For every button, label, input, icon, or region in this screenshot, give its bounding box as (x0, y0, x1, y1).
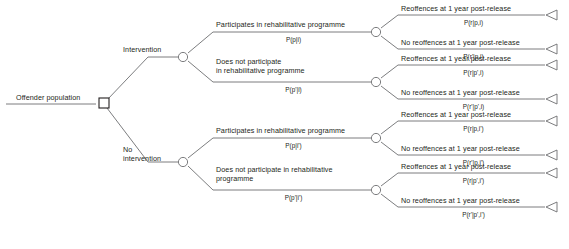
terminal-node-1 (546, 10, 557, 20)
root-label: Offender population (16, 94, 80, 103)
prob-outcome-5: P(r|p,i') (401, 125, 546, 133)
chance-node-noint-participate (371, 133, 380, 142)
label-outcome-4: No reoffences at 1 year post-release (401, 89, 520, 98)
terminal-node-6 (546, 150, 557, 160)
label-outcome-8: No reoffences at 1 year post-release (401, 197, 520, 206)
label-noint-notparticipate-line2: programme (216, 175, 253, 184)
terminal-node-7 (546, 168, 557, 178)
prob-noint-participate: P(p|i') (216, 142, 371, 150)
chance-node-intervention (178, 52, 187, 61)
terminal-node-4 (546, 94, 557, 104)
terminal-node-2 (546, 44, 557, 54)
label-outcome-1: Reoffences at 1 year post-release (401, 5, 511, 14)
terminal-node-8 (546, 202, 557, 212)
branch-label-nointervention-line2: intervention (123, 155, 161, 164)
prob-outcome-7: P(r|p',i') (401, 177, 546, 185)
branch-label-intervention: Intervention (123, 46, 161, 55)
terminal-nodes (546, 10, 557, 212)
label-int-notparticipate-line2: in rehabilitative programme (216, 67, 305, 76)
prob-int-notparticipate: P(p'|i) (216, 86, 371, 94)
prob-outcome-3: P(r|p',i) (401, 69, 546, 77)
label-noint-participate: Participates in rehabilitative programme (216, 127, 345, 136)
chance-node-noint-notparticipate (371, 185, 380, 194)
prob-int-participate: P(p|i) (216, 36, 371, 44)
chance-node-int-participate (371, 27, 380, 36)
prob-noint-notparticipate: P(p'|i') (216, 194, 371, 202)
label-int-participate: Participates in rehabilitative programme (216, 21, 345, 30)
terminal-node-5 (546, 116, 557, 126)
prob-outcome-1: P(r|p,i) (401, 19, 546, 27)
label-outcome-2: No reoffences at 1 year post-release (401, 39, 520, 48)
chance-node-nointervention (178, 157, 187, 166)
label-outcome-7: Reoffences at 1 year post-release (401, 163, 511, 172)
label-outcome-3: Reoffences at 1 year post-release (401, 55, 511, 64)
terminal-node-3 (546, 60, 557, 70)
label-outcome-5: Reoffences at 1 year post-release (401, 111, 511, 120)
decision-node-root (99, 98, 109, 108)
label-outcome-6: No reoffences at 1 year post-release (401, 145, 520, 154)
prob-outcome-8: P(r'|p',i') (401, 211, 546, 219)
chance-node-int-notparticipate (371, 77, 380, 86)
edge-root-intervention (107, 57, 178, 100)
